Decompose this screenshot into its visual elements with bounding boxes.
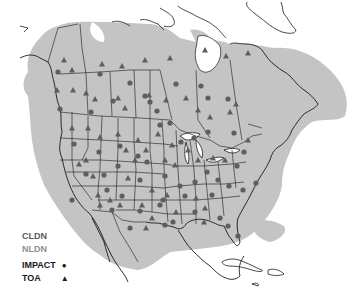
- impact-sensor-marker: [57, 106, 62, 111]
- impact-sensor-marker: [117, 143, 122, 148]
- impact-sensor-marker: [110, 98, 115, 103]
- legend-label-nldn: NLDN: [22, 243, 47, 256]
- impact-sensor-marker: [173, 81, 178, 86]
- legend-item-impact: IMPACT ●: [22, 259, 69, 272]
- impact-sensor-marker: [154, 108, 159, 113]
- impact-sensor-marker: [198, 83, 203, 88]
- impact-sensor-marker: [225, 223, 230, 228]
- impact-sensor-marker: [109, 207, 114, 212]
- impact-sensor-marker: [215, 177, 220, 182]
- legend-label-toa: TOA: [22, 272, 41, 285]
- impact-sensor-marker: [127, 225, 132, 230]
- impact-sensor-marker: [182, 193, 187, 198]
- triangle-icon: ▲: [61, 272, 69, 285]
- impact-sensor-marker: [135, 153, 140, 158]
- impact-sensor-marker: [235, 233, 240, 238]
- impact-sensor-marker: [101, 172, 106, 177]
- impact-sensor-marker: [137, 208, 142, 213]
- impact-sensor-marker: [204, 169, 209, 174]
- impact-sensor-marker: [191, 135, 196, 140]
- impact-sensor-marker: [55, 69, 60, 74]
- impact-sensor-marker: [115, 163, 120, 168]
- impact-sensor-marker: [231, 130, 236, 135]
- impact-sensor-marker: [71, 141, 76, 146]
- impact-sensor-marker: [96, 149, 101, 154]
- impact-sensor-marker: [167, 120, 172, 125]
- impact-sensor-marker: [157, 202, 162, 207]
- impact-sensor-marker: [144, 159, 149, 164]
- impact-sensor-marker: [157, 122, 162, 127]
- impact-sensor-marker: [88, 109, 93, 114]
- impact-sensor-marker: [241, 149, 246, 154]
- impact-sensor-marker: [234, 163, 239, 168]
- caribbean-islands: [222, 259, 284, 286]
- impact-sensor-marker: [225, 96, 230, 101]
- impact-sensor-marker: [162, 222, 167, 227]
- circle-icon: ●: [62, 259, 67, 272]
- impact-sensor-marker: [217, 215, 222, 220]
- impact-sensor-marker: [127, 80, 132, 85]
- legend-item-toa: TOA ▲: [22, 272, 69, 285]
- impact-sensor-marker: [97, 71, 102, 76]
- impact-sensor-marker: [178, 139, 183, 144]
- impact-sensor-marker: [205, 95, 210, 100]
- impact-sensor-marker: [192, 179, 197, 184]
- impact-sensor-marker: [240, 187, 245, 192]
- legend-item-cldn: CLDN: [22, 230, 69, 243]
- legend-item-nldn: NLDN: [22, 243, 69, 256]
- impact-sensor-marker: [69, 197, 74, 202]
- impact-sensor-marker: [83, 171, 88, 176]
- impact-sensor-marker: [192, 209, 197, 214]
- legend-label-impact: IMPACT: [22, 259, 56, 272]
- impact-sensor-marker: [160, 197, 165, 202]
- impact-sensor-marker: [104, 187, 109, 192]
- impact-sensor-marker: [209, 192, 214, 197]
- greenland-outline: [247, 2, 296, 33]
- impact-sensor-marker: [162, 173, 167, 178]
- impact-sensor-marker: [170, 219, 175, 224]
- impact-sensor-marker: [226, 183, 231, 188]
- impact-sensor-marker: [205, 129, 210, 134]
- impact-sensor-marker: [147, 99, 152, 104]
- impact-sensor-marker: [177, 183, 182, 188]
- legend: CLDN NLDN IMPACT ● TOA ▲: [22, 230, 69, 285]
- impact-sensor-marker: [253, 180, 258, 185]
- legend-label-cldn: CLDN: [22, 230, 47, 243]
- impact-sensor-marker: [119, 193, 124, 198]
- impact-sensor-marker: [137, 177, 142, 182]
